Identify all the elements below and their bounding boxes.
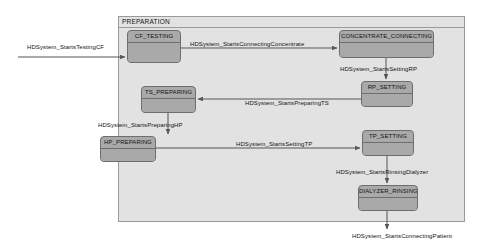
- state-node-dialyzer-rinsing[interactable]: DIALYZER_RINSING: [358, 185, 418, 211]
- state-label-ts-preparing: TS_PREPARING: [142, 87, 195, 98]
- state-body-dialyzer-rinsing: [359, 198, 417, 211]
- state-label-rp-setting: RP_SETTING: [362, 82, 412, 93]
- diagram-canvas: PREPARATION CF_TESTINGCONCENT: [0, 0, 496, 252]
- state-label-dialyzer-rinsing: DIALYZER_RINSING: [359, 186, 417, 197]
- state-body-rp-setting: [362, 94, 412, 107]
- state-body-tp-setting: [363, 143, 413, 156]
- transition-label-starts-rinsing-dialyzer: HDSystem_StartsRinsingDialyzer: [336, 169, 428, 175]
- transition-label-starts-preparing-hp: HDSystem_StartsPreparingHP: [98, 122, 183, 128]
- transition-label-starts-setting-tp: HDSystem_StartsSettingTP: [236, 141, 312, 147]
- state-node-rp-setting[interactable]: RP_SETTING: [361, 81, 413, 107]
- state-body-concentrate-connecting: [340, 43, 433, 58]
- transition-label-starts-setting-rp: HDSystem_StartsSettingRP: [340, 66, 417, 72]
- state-node-tp-setting[interactable]: TP_SETTING: [362, 130, 414, 156]
- state-node-ts-preparing[interactable]: TS_PREPARING: [141, 86, 196, 113]
- state-label-concentrate-connecting: CONCENTRATE_CONNECTING: [340, 31, 433, 42]
- state-body-cf-testing: [128, 43, 180, 63]
- transition-label-starts-testing-cf: HDSystem_StartsTestingCF: [27, 44, 104, 50]
- state-label-tp-setting: TP_SETTING: [363, 131, 413, 142]
- state-node-concentrate-connecting[interactable]: CONCENTRATE_CONNECTING: [339, 30, 434, 58]
- state-node-hp-preparing[interactable]: HP_PREPARING: [100, 136, 156, 162]
- state-label-cf-testing: CF_TESTING: [128, 31, 180, 42]
- state-node-cf-testing[interactable]: CF_TESTING: [127, 30, 181, 63]
- transition-label-starts-preparing-ts: HDSystem_StartsPreparingTS: [245, 100, 329, 106]
- state-label-hp-preparing: HP_PREPARING: [101, 137, 155, 148]
- state-body-ts-preparing: [142, 99, 195, 113]
- state-body-hp-preparing: [101, 149, 155, 162]
- transition-label-starts-connecting-patient: HDSystem_StartsConnectingPatient: [352, 233, 452, 239]
- transition-label-starts-connecting-concentrate: HDSystem_StartsConnectingConcentrate: [190, 41, 304, 47]
